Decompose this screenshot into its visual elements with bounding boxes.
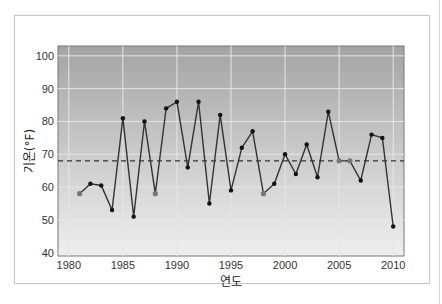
data-point [326, 109, 330, 113]
data-point [218, 113, 222, 117]
x-tick-label: 2010 [381, 259, 405, 271]
data-point [272, 182, 276, 186]
x-tick-label: 1995 [219, 259, 243, 271]
data-point [369, 132, 373, 136]
data-point [391, 224, 395, 228]
y-tick-label: 70 [42, 148, 54, 160]
data-point [261, 191, 266, 196]
data-point [359, 178, 363, 182]
y-tick-label: 80 [42, 115, 54, 127]
x-tick-label: 2000 [273, 259, 297, 271]
data-point [315, 175, 319, 179]
data-point [283, 152, 287, 156]
data-point [304, 142, 308, 146]
data-point [186, 165, 190, 169]
data-point [229, 188, 233, 192]
y-tick-label: 60 [42, 181, 54, 193]
y-tick-label: 90 [42, 83, 54, 95]
data-point [99, 183, 103, 187]
x-tick-label: 1985 [111, 259, 135, 271]
data-point [110, 208, 114, 212]
data-point [131, 214, 135, 218]
data-point [88, 182, 92, 186]
y-tick-label: 50 [42, 214, 54, 226]
data-point [347, 158, 352, 163]
data-point [164, 106, 168, 110]
x-axis-label: 연도 [220, 275, 242, 289]
x-tick-label: 1990 [165, 259, 189, 271]
data-point [240, 146, 244, 150]
data-point [77, 191, 82, 196]
data-point [175, 100, 179, 104]
y-tick-label: 100 [36, 50, 54, 62]
data-point [196, 100, 200, 104]
y-tick-label: 40 [42, 247, 54, 259]
data-point [294, 172, 298, 176]
data-point [207, 201, 211, 205]
x-tick-label: 1980 [57, 259, 81, 271]
x-axis-ticks: 1980198519901995200020052010 [57, 259, 406, 271]
data-point [121, 116, 125, 120]
line-chart: 405060708090100 198019851990199520002005… [0, 0, 442, 304]
data-point [142, 119, 146, 123]
x-tick-label: 2005 [327, 259, 351, 271]
data-point [337, 158, 342, 163]
data-point [380, 136, 384, 140]
y-axis-ticks: 405060708090100 [36, 50, 54, 259]
data-point [250, 129, 254, 133]
data-point [153, 191, 158, 196]
y-axis-label: 기온(°F) [23, 129, 37, 173]
